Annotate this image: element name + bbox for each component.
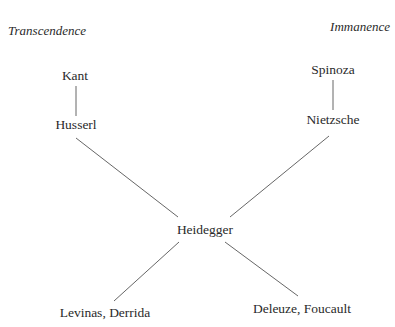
node-levinas-derrida: Levinas, Derrida [60, 305, 151, 320]
edge-heidegger-levinas-derrida [114, 242, 179, 301]
node-spinoza: Spinoza [311, 62, 355, 77]
edge-husserl-heidegger [76, 138, 178, 217]
node-husserl: Husserl [55, 117, 96, 132]
node-heidegger: Heidegger [177, 222, 234, 237]
edge-nietzsche-heidegger [230, 136, 329, 217]
node-nietzsche: Nietzsche [306, 112, 359, 127]
node-kant: Kant [62, 68, 88, 83]
edge-heidegger-deleuze-foucault [225, 242, 298, 296]
heading-immanence: Immanence [329, 19, 390, 34]
philosophy-lineage-diagram: Transcendence Immanence Kant Husserl Spi… [0, 0, 395, 327]
node-deleuze-foucault: Deleuze, Foucault [253, 301, 351, 316]
heading-transcendence: Transcendence [8, 23, 86, 38]
